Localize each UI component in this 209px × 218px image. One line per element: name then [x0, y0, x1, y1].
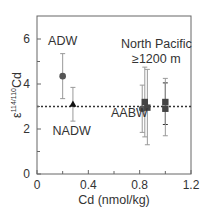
annotation-label: North Pacific: [121, 37, 192, 51]
y-tick-label: 6: [23, 32, 30, 46]
x-tick-label: 0.8: [131, 178, 148, 192]
y-tick-label: 4: [23, 77, 30, 91]
square-marker: [162, 106, 168, 112]
annotations: ADWNADWAABWNorth Pacific≥1200 m: [48, 34, 192, 138]
x-tick-label: 1.2: [183, 178, 200, 192]
circle-marker: [59, 73, 66, 80]
y-axis-label: ε114/110Cd: [10, 72, 24, 118]
square-marker: [162, 99, 168, 105]
annotation-label: AABW: [111, 106, 148, 120]
triangle-marker: [69, 100, 76, 106]
x-tick-label: 0.4: [80, 178, 97, 192]
annotation-label: NADW: [53, 124, 91, 138]
y-tick-label: 0: [23, 167, 30, 181]
scatter-chart: 00.40.81.20246 ADWNADWAABWNorth Pacific≥…: [0, 0, 209, 218]
x-axis-label: Cd (nmol/kg): [78, 193, 150, 207]
annotation-label: ≥1200 m: [132, 52, 181, 66]
square-marker: [142, 99, 148, 105]
x-tick-label: 0: [34, 178, 41, 192]
annotation-label: ADW: [48, 34, 77, 48]
y-tick-label: 2: [23, 122, 30, 136]
